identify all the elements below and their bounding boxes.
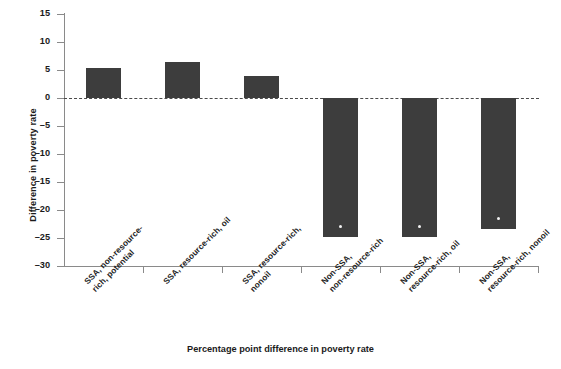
y-axis-tick [57,238,64,239]
x-axis-title: Percentage point difference in poverty r… [0,344,561,354]
bar-significance-marker [418,225,421,228]
bar [481,98,516,229]
x-axis-category-label: SSA, resource-rich, nonoil [240,223,312,295]
x-axis-tick [301,266,302,273]
y-axis-line [64,13,65,267]
y-axis-tick [57,266,64,267]
bar [244,76,279,98]
y-axis-tick-label: 10 [16,37,50,46]
x-axis-category-label: Non-SSA, non-resource-rich [319,228,386,295]
bar [165,62,200,98]
bar-chart-figure: Difference in poverty rate 151050–5–10–1… [0,0,561,369]
y-axis-tick [57,182,64,183]
y-axis-tick-label: 5 [16,65,50,74]
bar [323,98,358,237]
bar [402,98,437,237]
y-axis-tick-label: 0 [16,93,50,102]
y-axis-tick-label: 15 [16,9,50,18]
y-axis-tick-label: –20 [16,205,50,214]
y-axis-tick-label: –5 [16,121,50,130]
y-axis-tick [57,98,64,99]
y-axis-tick [57,70,64,71]
y-axis-tick-label: –30 [16,261,50,270]
bar [86,68,121,98]
x-axis-tick [222,266,223,273]
bar-significance-marker [339,225,342,228]
x-axis-category-label: SSA, non-resource- rich, potential [82,223,154,295]
x-axis-category-label: Non-SSA, resource-rich, nonoil [477,219,553,295]
y-axis-tick [57,42,64,43]
x-axis-tick [538,266,539,273]
y-axis-tick [57,126,64,127]
zero-line [64,98,539,99]
y-axis-tick [57,210,64,211]
x-axis-tick [380,266,381,273]
y-axis-tick-label: –15 [16,177,50,186]
y-axis-tick-label: –10 [16,149,50,158]
x-axis-tick [459,266,460,273]
y-axis-tick-label: –25 [16,233,50,242]
x-axis-category-label: Non-SSA, resource-rich, oil [398,230,463,295]
y-axis-tick [57,154,64,155]
x-axis-category-label: SSA, resource-rich, oil [161,215,233,287]
x-axis-tick [143,266,144,273]
y-axis-tick [57,14,64,15]
